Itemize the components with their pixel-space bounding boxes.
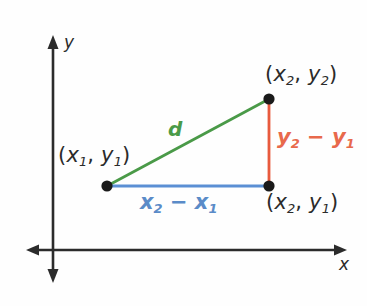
y-axis-top-arrow-icon — [48, 35, 59, 49]
y-subscript: 1 — [114, 154, 122, 169]
distance-label: d — [168, 119, 182, 139]
y1-var-glyph: y — [332, 125, 346, 149]
y-axis-label: y — [64, 34, 74, 51]
point-x1-y1 — [101, 180, 112, 191]
point-x2-y2 — [263, 93, 274, 104]
x-axis-label: x — [339, 256, 349, 273]
point-label-x1-y1: (x1, y1) — [58, 145, 130, 166]
triangle-group — [107, 99, 269, 186]
vertical-leg-label: y2 − y1 — [277, 127, 355, 148]
y-var-glyph: y — [101, 143, 114, 167]
x-var-glyph: x — [274, 190, 287, 214]
x1-var-glyph: x — [195, 190, 209, 214]
minus-sign: − — [163, 190, 195, 214]
x-axis-left-arrow-icon — [26, 245, 39, 256]
y-axis-bottom-arrow-icon — [48, 269, 59, 283]
distance-formula-diagram: y x (x1, y1) (x2, y2) (x2, y1) d y2 − y1… — [0, 0, 367, 306]
x1-subscript: 1 — [208, 201, 217, 216]
point-label-x2-y1: (x2, y1) — [266, 192, 338, 213]
x-subscript: 2 — [286, 73, 294, 88]
minus-sign: − — [300, 125, 332, 149]
y-var-glyph: y — [309, 190, 322, 214]
x2-var-glyph: x — [140, 190, 154, 214]
y2-var-glyph: y — [277, 125, 291, 149]
y-subscript: 1 — [322, 201, 330, 216]
point-label-x2-y2: (x2, y2) — [265, 64, 337, 85]
diagram-canvas — [0, 0, 367, 306]
horizontal-leg-label: x2 − x1 — [140, 192, 217, 213]
x-subscript: 1 — [79, 154, 87, 169]
x-var-glyph: x — [66, 143, 79, 167]
x-subscript: 2 — [287, 201, 295, 216]
y-var-glyph: y — [308, 62, 321, 86]
x-var-glyph: x — [273, 62, 286, 86]
distance-segment — [107, 99, 269, 186]
y2-subscript: 2 — [291, 136, 300, 151]
y-subscript: 2 — [321, 73, 329, 88]
y1-subscript: 1 — [346, 136, 355, 151]
x2-subscript: 2 — [154, 201, 163, 216]
